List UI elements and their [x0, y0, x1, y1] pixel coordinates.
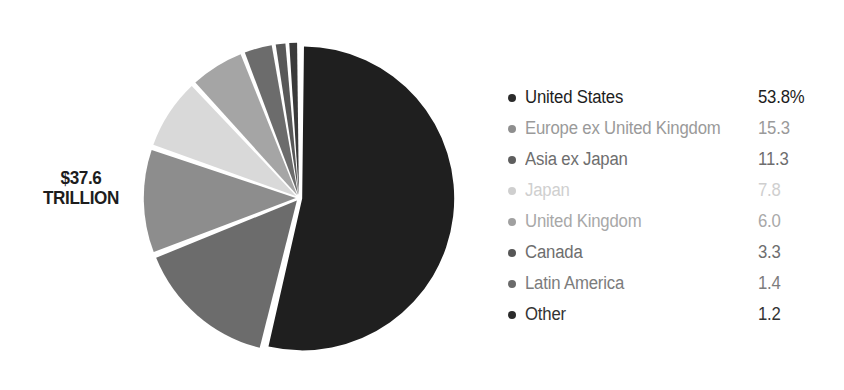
pie-svg [143, 22, 455, 374]
pie-slice-group [144, 43, 454, 351]
legend-item-europe-ex-united-kingdom[interactable]: Europe ex United Kingdom15.3 [505, 113, 835, 144]
legend-bullet-icon [508, 94, 516, 102]
legend-label: Other [525, 299, 566, 330]
pie-graphic [143, 22, 455, 374]
legend-bullet-icon [508, 249, 516, 257]
legend-label: Latin America [525, 268, 624, 299]
total-amount: $37.6 [24, 168, 137, 188]
legend-label: Japan [525, 175, 570, 206]
legend-value: 7.8 [758, 175, 781, 206]
legend-value: 6.0 [758, 206, 781, 237]
legend-item-asia-ex-japan[interactable]: Asia ex Japan11.3 [505, 144, 835, 175]
legend-label: Asia ex Japan [525, 144, 628, 175]
legend-item-latin-america[interactable]: Latin America1.4 [505, 268, 835, 299]
legend-value: 1.2 [758, 299, 781, 330]
legend-bullet-icon [508, 125, 516, 133]
total-unit: TRILLION [24, 188, 137, 208]
legend-item-united-states[interactable]: United States53.8% [505, 82, 835, 113]
legend-item-other[interactable]: Other1.2 [505, 299, 835, 330]
legend-item-japan[interactable]: Japan7.8 [505, 175, 835, 206]
legend-label: Canada [525, 237, 583, 268]
legend-bullet-icon [508, 156, 516, 164]
pie-chart-figure: $37.6 TRILLION United States53.8%Europe … [0, 0, 844, 390]
legend-bullet-icon [508, 218, 516, 226]
chart-legend: United States53.8%Europe ex United Kingd… [505, 82, 835, 330]
legend-value: 3.3 [758, 237, 781, 268]
legend-item-canada[interactable]: Canada3.3 [505, 237, 835, 268]
legend-value: 11.3 [758, 144, 789, 175]
legend-bullet-icon [508, 280, 516, 288]
legend-value: 53.8% [758, 82, 805, 113]
legend-bullet-icon [508, 311, 516, 319]
legend-item-united-kingdom[interactable]: United Kingdom6.0 [505, 206, 835, 237]
legend-value: 15.3 [758, 113, 790, 144]
legend-value: 1.4 [758, 268, 781, 299]
legend-label: Europe ex United Kingdom [525, 113, 721, 144]
legend-bullet-icon [508, 187, 516, 195]
legend-label: United Kingdom [525, 206, 642, 237]
legend-label: United States [525, 82, 623, 113]
chart-total-label: $37.6 TRILLION [24, 168, 137, 208]
